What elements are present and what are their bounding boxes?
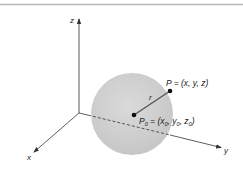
surface-point-label: P = (x, y, z) (166, 78, 208, 88)
x-axis-label: x (26, 153, 32, 162)
surface-point-dot (168, 89, 173, 94)
z-axis-label: z (69, 16, 74, 25)
radius-label: r (149, 93, 152, 102)
y-axis-label: y (223, 146, 229, 155)
center-point-label: P0 = (x0, y0, z0) (139, 116, 195, 127)
y-axis-front (79, 113, 93, 116)
sphere-diagram: z x y r P = (x, y, z) P0 = (x0, y0, z0) (0, 0, 243, 177)
center-point-dot (132, 113, 137, 118)
y-axis-back (170, 135, 221, 148)
diagram-canvas: z x y r P = (x, y, z) P0 = (x0, y0, z0) (0, 0, 243, 177)
x-axis (34, 113, 79, 152)
